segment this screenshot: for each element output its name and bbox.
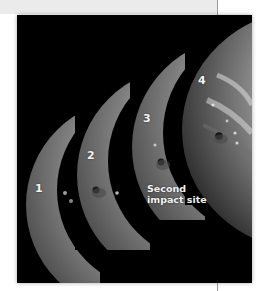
annotation-line-2: impact site: [147, 194, 207, 205]
jupiter-impact-photo: 1 2 3 4 Second impact site: [17, 15, 252, 283]
top-band: [0, 0, 218, 14]
impact-site-annotation: Second impact site: [147, 183, 207, 205]
panel-2-label: 2: [87, 150, 95, 162]
panel-3-label: 3: [143, 113, 151, 125]
annotation-line-1: Second: [147, 183, 207, 194]
jupiter-crescents-graphic: [17, 15, 252, 283]
panel-1-label: 1: [35, 183, 43, 195]
panel-4-label: 4: [198, 75, 206, 87]
